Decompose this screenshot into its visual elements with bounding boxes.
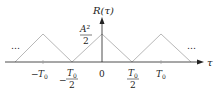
tick-label-neg-half-T0: − T 0 2: [59, 68, 78, 90]
ellipsis-right: …: [187, 41, 196, 51]
peak-numerator: A²: [79, 24, 90, 34]
y-axis-label: R(τ): [92, 5, 114, 16]
peak-denominator: 2: [83, 36, 89, 46]
tick-label-neg-T0: − T 0: [31, 69, 48, 80]
svg-text:0: 0: [44, 73, 48, 80]
x-axis-label: τ: [207, 57, 213, 68]
ellipsis-left: …: [11, 41, 20, 51]
tick-label-half-T0: T 0 2: [127, 68, 139, 90]
y-axis-arrow-icon: [100, 17, 105, 24]
svg-text:0: 0: [134, 72, 138, 79]
svg-text:2: 2: [130, 80, 136, 90]
svg-text:0: 0: [73, 72, 77, 79]
svg-text:0: 0: [162, 73, 166, 80]
svg-text:2: 2: [69, 80, 75, 90]
svg-text:−: −: [59, 75, 67, 85]
tick-label-T0: T 0: [156, 69, 166, 80]
autocorrelation-diagram: R(τ) τ A² 2 … … − T 0 − T 0 2 0 T 0 2 T …: [0, 0, 217, 100]
triangle-wave: [15, 34, 191, 62]
x-axis-arrow-icon: [197, 60, 204, 65]
tick-label-zero: 0: [99, 69, 105, 79]
